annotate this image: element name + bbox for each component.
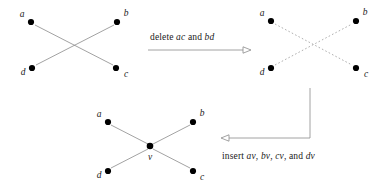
node-v [147, 143, 154, 150]
edge-a-c [35, 25, 113, 65]
insert-operand-av: av [247, 151, 256, 161]
insert-text-middle: , and [284, 151, 306, 161]
delete-text-prefix: delete [150, 32, 176, 42]
node-b [353, 18, 359, 24]
node-label-a: a [20, 9, 25, 19]
edge-d-b-dashed [275, 24, 352, 65]
node-c [353, 65, 359, 71]
node-c [190, 168, 196, 174]
graph-original-labels: a b d c [20, 8, 129, 79]
node-b [190, 119, 196, 125]
edge-b-v [153, 125, 190, 144]
graph-deleted-labels: a b d c [260, 7, 369, 79]
graph-after-deletion: a b d c [260, 7, 369, 79]
node-label-c: c [364, 69, 369, 79]
graph-original: a b d c [20, 8, 129, 79]
node-label-c: c [124, 69, 129, 79]
graph-deleted-nodes [268, 18, 359, 71]
transition-delete-arrow [148, 47, 251, 53]
edge-d-b [36, 25, 114, 65]
delete-text-middle: and [185, 32, 204, 42]
node-c [113, 65, 119, 71]
node-a [268, 18, 274, 24]
transition-insert-arrow [221, 88, 310, 141]
node-b [114, 19, 120, 25]
edge-a-c-dashed [275, 24, 352, 65]
node-label-b: b [363, 7, 368, 17]
edge-d-v [111, 149, 148, 168]
delete-operand-bd: bd [205, 32, 215, 42]
node-label-b: b [124, 8, 129, 18]
delete-operation-label: delete ac and bd [150, 32, 214, 42]
node-d [105, 168, 111, 174]
insert-text-prefix: insert [222, 151, 247, 161]
delete-arrow-head-icon [243, 47, 251, 53]
node-label-d: d [21, 67, 26, 77]
insert-operand-bv: bv [261, 151, 270, 161]
graph-inserted-nodes [105, 119, 196, 174]
insert-operation-label: insert av, bv, cv, and dv [222, 151, 315, 161]
node-label-c: c [200, 172, 205, 182]
node-label-d: d [260, 67, 265, 77]
insert-operand-dv: dv [306, 151, 315, 161]
delete-operand-ac: ac [176, 32, 185, 42]
insert-arrow-head-icon [221, 135, 229, 141]
node-d [268, 65, 274, 71]
node-label-a: a [260, 8, 265, 18]
graph-deleted-edges [275, 24, 352, 65]
node-a [105, 119, 111, 125]
contraction-diagram: a b d c a b d c [0, 0, 384, 189]
node-label-b: b [200, 108, 205, 118]
edge-c-v [153, 149, 190, 168]
graph-original-edges [35, 25, 114, 65]
insert-operand-cv: cv [275, 151, 284, 161]
node-label-a: a [97, 109, 102, 119]
insert-arrow-shaft [229, 88, 310, 138]
node-d [29, 65, 35, 71]
node-label-d: d [97, 170, 102, 180]
node-a [28, 19, 34, 25]
node-label-v: v [148, 152, 153, 162]
graph-after-insertion: a b d c v [97, 108, 205, 182]
edge-a-v [111, 125, 148, 144]
